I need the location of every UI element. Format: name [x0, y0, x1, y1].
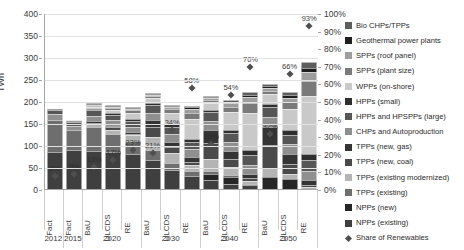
bar-segment[interactable]: [223, 112, 238, 130]
share-of-renewables-marker[interactable]: [247, 63, 254, 70]
bar-segment[interactable]: [243, 185, 258, 189]
stacked-bar[interactable]: [106, 105, 121, 189]
legend-item[interactable]: TPPs (existing): [344, 185, 464, 200]
x-axis-cell: Fact: [64, 190, 84, 230]
bar-segment[interactable]: [184, 119, 199, 139]
bar-segment[interactable]: [165, 170, 180, 189]
bar-segment[interactable]: [145, 127, 160, 137]
bar-segment[interactable]: [47, 120, 62, 152]
x-axis-cell: RE: [181, 190, 201, 230]
chart-legend: Bio CHPs/TPPsGeothermal power plantsSPPs…: [344, 18, 464, 246]
legend-item[interactable]: WPPs (on-shore): [344, 79, 464, 94]
share-of-renewables-label: 70%: [243, 55, 258, 64]
stacked-bar[interactable]: [184, 106, 199, 190]
legend-item[interactable]: Bio CHPs/TPPs: [344, 18, 464, 33]
y-axis-right-tick-mark: [318, 84, 321, 85]
bar-segment[interactable]: [86, 127, 101, 151]
grid-line: [45, 80, 318, 81]
x-axis-year-label: 2012: [44, 234, 62, 243]
bar-segment[interactable]: [204, 180, 219, 189]
bar-segment[interactable]: [165, 153, 180, 164]
stacked-bar[interactable]: [67, 120, 82, 189]
bar-segment[interactable]: [282, 164, 297, 174]
bar-segment[interactable]: [282, 135, 297, 145]
share-of-renewables-marker[interactable]: [286, 70, 293, 77]
bar-segment[interactable]: [145, 113, 160, 121]
bar-segment[interactable]: [282, 179, 297, 189]
y-axis-tick-label: 250: [24, 75, 38, 85]
y-axis-right-tick-mark: [318, 102, 321, 103]
grid-line: [45, 168, 318, 169]
share-of-renewables-marker[interactable]: [188, 84, 195, 91]
bar-segment[interactable]: [145, 105, 160, 112]
bar-segment[interactable]: [204, 103, 219, 110]
bar-segment[interactable]: [302, 81, 317, 96]
bar-segment[interactable]: [126, 154, 141, 189]
legend-item[interactable]: NPPs (existing): [344, 215, 464, 230]
legend-swatch-icon: [345, 83, 352, 90]
x-axis-year-label: 2050: [279, 234, 297, 243]
y-axis-right-tick-mark: [318, 32, 321, 33]
legend-item[interactable]: CHPs and Autoproduction: [344, 124, 464, 139]
legend-item[interactable]: HPPs (small): [344, 94, 464, 109]
bar-segment[interactable]: [302, 187, 317, 189]
bar-segment[interactable]: [184, 149, 199, 157]
bar-segment[interactable]: [282, 109, 297, 130]
legend-item[interactable]: Share of Renewables: [344, 231, 464, 246]
stacked-bar[interactable]: [243, 92, 258, 189]
bar-segment[interactable]: [223, 184, 238, 189]
x-axis-year-group: 2012: [44, 230, 64, 248]
y-axis-tick-mark: [39, 146, 42, 147]
legend-label: HPPs (small): [356, 98, 400, 106]
legend-item[interactable]: TPPs (existing modernized): [344, 170, 464, 185]
bar-segment[interactable]: [67, 130, 82, 150]
bar-segment[interactable]: [263, 107, 278, 117]
bar-segment[interactable]: [243, 155, 258, 165]
share-of-renewables-marker[interactable]: [306, 23, 313, 30]
bar-segment[interactable]: [243, 113, 258, 150]
bar-segment[interactable]: [204, 121, 219, 130]
grid-line: [45, 102, 318, 103]
y-axis-tick-mark: [39, 168, 42, 169]
legend-item[interactable]: HPPs and HPSPPs (large): [344, 109, 464, 124]
legend-item[interactable]: Geothermal power plants: [344, 33, 464, 48]
legend-swatch-icon: [345, 37, 352, 44]
bar-segment[interactable]: [302, 171, 317, 181]
bar-segment[interactable]: [223, 159, 238, 167]
y-axis-tick-label: 200: [24, 97, 38, 107]
bar-segment[interactable]: [204, 112, 219, 121]
y-axis-right-tick-label: 10%: [324, 167, 341, 177]
legend-item[interactable]: TPPs (new, coal): [344, 155, 464, 170]
bar-segment[interactable]: [145, 160, 160, 189]
share-of-renewables-marker[interactable]: [227, 91, 234, 98]
legend-swatch-icon: [345, 22, 352, 29]
legend-label: NPPs (existing): [356, 219, 408, 227]
bar-segment[interactable]: [282, 154, 297, 165]
bar-segment[interactable]: [223, 151, 238, 159]
legend-label: Share of Renewables: [356, 234, 429, 242]
legend-swatch-icon: [345, 113, 352, 120]
bar-segment[interactable]: [263, 145, 278, 168]
legend-item[interactable]: SPPs (plant size): [344, 64, 464, 79]
y-axis-tick-mark: [39, 124, 42, 125]
bar-segment[interactable]: [223, 133, 238, 142]
bar-segment[interactable]: [223, 177, 238, 184]
bar-segment[interactable]: [282, 102, 297, 109]
share-of-renewables-label: 93%: [302, 14, 317, 23]
stacked-bar[interactable]: [302, 62, 317, 189]
legend-item[interactable]: TPPs (new, gas): [344, 140, 464, 155]
x-axis-year-label: 2030: [162, 234, 180, 243]
bar-segment[interactable]: [165, 134, 180, 142]
bar-segment[interactable]: [243, 165, 258, 174]
share-of-renewables-label: 54%: [223, 83, 238, 92]
bar-segment[interactable]: [184, 176, 199, 189]
legend-item[interactable]: NPPs (new): [344, 200, 464, 215]
x-axis-cell: BaU: [142, 190, 162, 230]
bar-segment[interactable]: [263, 168, 278, 177]
stacked-bar[interactable]: [223, 100, 238, 189]
bar-segment[interactable]: [263, 177, 278, 189]
grid-line: [45, 58, 318, 59]
legend-item[interactable]: SPPs (roof panel): [344, 48, 464, 63]
bar-segment[interactable]: [243, 103, 258, 113]
stacked-bar[interactable]: [282, 92, 297, 189]
